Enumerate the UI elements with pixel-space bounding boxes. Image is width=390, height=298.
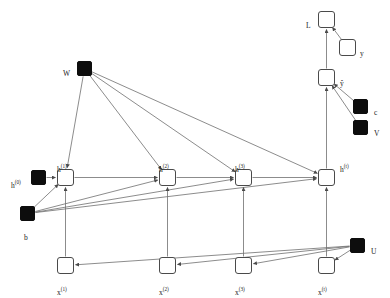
node-label-h1: h(1) [57,164,67,173]
node-label-x4: x(t) [318,287,327,296]
edge-b-to-h2 [35,180,158,212]
node-L[interactable] [318,11,335,28]
node-label-W: W [63,70,70,78]
edge-W-to-h2 [89,75,161,170]
rnn-unfolded-graph: LyŷcVWbUh(0)h(1)h(2)h(3)h(t)x(1)x(2)x(3)… [0,0,390,298]
node-V[interactable] [353,120,368,135]
node-label-V: V [374,130,379,138]
node-label-ht: h(t) [340,164,349,173]
node-b[interactable] [20,206,35,221]
node-label-h0: h(0) [11,180,21,189]
edge-b-to-h1 [33,184,58,208]
node-label-b: b [24,234,28,242]
node-label-L: L [306,22,311,30]
node-label-y: y [360,50,364,58]
node-h0[interactable] [31,170,46,185]
edge-U-to-x1 [75,246,349,265]
node-label-x1: x(1) [57,287,67,296]
node-label-h3: h(3) [235,164,245,173]
node-label-x2: x(2) [159,287,169,296]
node-yhat[interactable] [318,69,335,86]
node-label-c: c [374,109,377,117]
edge-U-to-x4 [335,250,351,260]
edge-W-to-h3 [91,73,235,172]
node-c[interactable] [353,99,368,114]
node-label-h2: h(2) [159,164,169,173]
node-ht[interactable] [318,169,335,186]
node-x2[interactable] [159,257,176,274]
node-U[interactable] [350,238,365,253]
edge-W-to-h1 [67,76,83,167]
edge-b-to-ht [35,179,316,213]
edge-layer [0,0,390,298]
node-x1[interactable] [57,257,74,274]
node-label-U: U [371,248,376,256]
node-x4[interactable] [318,257,335,274]
node-label-yhat: ŷ [340,80,344,88]
node-y[interactable] [339,39,356,56]
node-x3[interactable] [235,257,252,274]
node-label-x3: x(3) [235,287,245,296]
node-W[interactable] [77,61,92,76]
